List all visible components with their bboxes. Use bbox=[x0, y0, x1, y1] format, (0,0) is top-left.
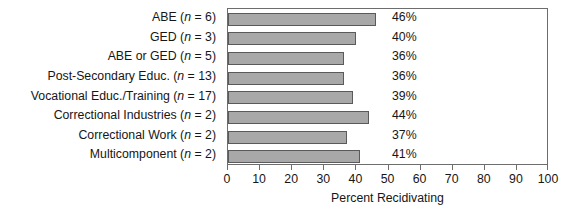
x-axis-tick-label: 0 bbox=[224, 171, 231, 187]
x-axis-tick bbox=[420, 165, 421, 170]
x-axis-tick bbox=[355, 165, 356, 170]
x-axis-tick bbox=[323, 165, 324, 170]
x-axis-tick bbox=[291, 165, 292, 170]
bar-value-label: 41% bbox=[392, 145, 417, 165]
x-axis-tick-label: 40 bbox=[349, 171, 363, 187]
x-axis-tick-label: 80 bbox=[477, 171, 491, 187]
sample-size-value: 2 bbox=[205, 108, 212, 122]
category-name: ABE bbox=[152, 10, 177, 24]
x-axis-tick bbox=[516, 165, 517, 170]
bar-value-label: 44% bbox=[392, 106, 417, 126]
x-axis-tick bbox=[452, 165, 453, 170]
bar-value-label: 39% bbox=[392, 87, 417, 107]
category-label: Correctional Industries (n = 2) bbox=[54, 106, 216, 126]
bar-value-label: 36% bbox=[392, 47, 417, 67]
x-axis-tick-label: 90 bbox=[509, 171, 523, 187]
category-sample-size: (n = 2) bbox=[177, 128, 216, 142]
category-sample-size: (n = 6) bbox=[177, 10, 216, 24]
category-name: ABE or GED bbox=[108, 49, 177, 63]
category-label: Post-Secondary Educ. (n = 13) bbox=[47, 67, 216, 87]
category-sample-size: (n = 2) bbox=[177, 147, 216, 161]
bar-value-label: 46% bbox=[392, 8, 417, 28]
x-axis-tick-labels: 0102030405060708090100 bbox=[227, 171, 548, 187]
sample-size-value: 2 bbox=[205, 147, 212, 161]
x-axis-tick-label: 60 bbox=[413, 171, 427, 187]
bar-value-label: 40% bbox=[392, 28, 417, 48]
category-label: GED (n = 3) bbox=[150, 28, 216, 48]
bar-value-labels: 46%40%36%36%39%44%37%41% bbox=[227, 8, 548, 165]
sample-size-value: 6 bbox=[205, 10, 212, 24]
x-axis-tick bbox=[547, 165, 548, 170]
x-axis-tick-label: 70 bbox=[445, 171, 459, 187]
category-sample-size: (n = 2) bbox=[177, 108, 216, 122]
sample-size-value: 17 bbox=[198, 89, 212, 103]
category-name: GED bbox=[150, 30, 177, 44]
x-axis-tick bbox=[227, 165, 228, 170]
category-sample-size: (n = 5) bbox=[177, 49, 216, 63]
category-label: ABE (n = 6) bbox=[152, 8, 216, 28]
category-name: Multicomponent bbox=[90, 147, 177, 161]
x-axis-tick bbox=[388, 165, 389, 170]
sample-size-value: 3 bbox=[205, 30, 212, 44]
x-axis-tick-label: 10 bbox=[252, 171, 266, 187]
category-sample-size: (n = 13) bbox=[170, 69, 216, 83]
x-axis-tick-label: 100 bbox=[538, 171, 559, 187]
x-axis-tick bbox=[259, 165, 260, 170]
sample-size-value: 13 bbox=[198, 69, 212, 83]
x-axis-tick-label: 30 bbox=[316, 171, 330, 187]
sample-size-value: 5 bbox=[205, 49, 212, 63]
category-name: Correctional Work bbox=[78, 128, 176, 142]
category-label: Multicomponent (n = 2) bbox=[90, 145, 216, 165]
category-sample-size: (n = 3) bbox=[177, 30, 216, 44]
category-axis-labels: ABE (n = 6)GED (n = 3)ABE or GED (n = 5)… bbox=[0, 8, 222, 165]
recidivism-bar-chart: ABE (n = 6)GED (n = 3)ABE or GED (n = 5)… bbox=[0, 0, 582, 217]
category-sample-size: (n = 17) bbox=[170, 89, 216, 103]
category-name: Vocational Educ./Training bbox=[31, 89, 170, 103]
sample-size-value: 2 bbox=[205, 128, 212, 142]
category-name: Post-Secondary Educ. bbox=[47, 69, 169, 83]
category-label: Correctional Work (n = 2) bbox=[78, 126, 216, 146]
category-label: Vocational Educ./Training (n = 17) bbox=[31, 87, 216, 107]
x-axis-tick-label: 50 bbox=[381, 171, 395, 187]
x-axis-title: Percent Recidivating bbox=[227, 190, 548, 206]
x-axis-tick-label: 20 bbox=[284, 171, 298, 187]
bar-value-label: 36% bbox=[392, 67, 417, 87]
bar-value-label: 37% bbox=[392, 126, 417, 146]
category-name: Correctional Industries bbox=[54, 108, 177, 122]
x-axis-tick bbox=[484, 165, 485, 170]
category-label: ABE or GED (n = 5) bbox=[108, 47, 216, 67]
